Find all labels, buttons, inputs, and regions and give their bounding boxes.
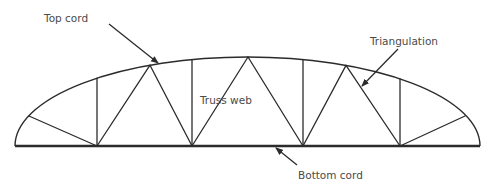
top-cord-arrow-icon <box>109 24 158 63</box>
callouts: Top cord Triangulation Truss web Bottom … <box>43 12 438 181</box>
truss-diagonal <box>150 65 192 146</box>
truss-diagram: Top cord Triangulation Truss web Bottom … <box>0 0 496 191</box>
truss-diagonal <box>248 57 303 146</box>
truss-diagonal <box>303 65 346 146</box>
label-top-cord: Top cord <box>43 12 88 24</box>
truss-end-diagonal <box>29 116 97 146</box>
truss-diagonal <box>346 65 400 146</box>
label-triangulation: Triangulation <box>369 35 438 47</box>
triangulation-arrow-icon <box>362 49 398 86</box>
truss-end-diagonal <box>400 116 465 146</box>
label-bottom-cord: Bottom cord <box>298 169 363 181</box>
label-truss-web: Truss web <box>199 94 252 106</box>
truss-diagonal <box>97 65 150 146</box>
bottom-cord-arrow-icon <box>276 148 297 165</box>
